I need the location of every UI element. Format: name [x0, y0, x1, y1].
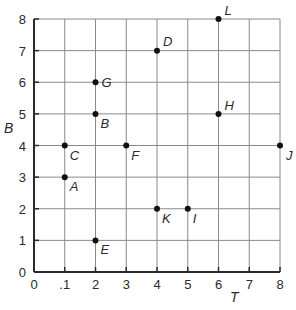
scatter-chart: 0.12345678 012345678 T B ABCDEFGHIJKL — [0, 0, 296, 310]
data-point-d — [154, 48, 160, 54]
data-point-f — [123, 143, 129, 149]
y-tick-label: 7 — [19, 44, 26, 59]
point-label-f: F — [131, 148, 140, 163]
point-label-l: L — [225, 3, 232, 18]
data-point-b — [93, 111, 99, 117]
data-point-a — [62, 174, 68, 180]
x-tick-label: 3 — [123, 277, 130, 292]
data-point-j — [277, 143, 283, 149]
y-tick-label: 0 — [19, 265, 26, 280]
data-point-c — [62, 143, 68, 149]
x-axis-title: T — [230, 289, 240, 305]
data-point-h — [216, 111, 222, 117]
y-tick-label: 4 — [19, 139, 26, 154]
x-tick-label: .1 — [59, 277, 70, 292]
grid-lines — [34, 19, 280, 272]
data-point-l — [216, 16, 222, 22]
point-label-i: I — [193, 211, 197, 226]
y-axis-ticks: 012345678 — [19, 12, 39, 280]
x-tick-label: 2 — [92, 277, 99, 292]
x-tick-label: 7 — [246, 277, 253, 292]
y-tick-label: 6 — [19, 75, 26, 90]
x-tick-label: 8 — [276, 277, 283, 292]
y-axis-title: B — [4, 120, 13, 136]
data-point-k — [154, 206, 160, 212]
point-label-k: K — [162, 211, 172, 226]
point-label-e: E — [101, 242, 110, 257]
data-point-i — [185, 206, 191, 212]
x-tick-label: 0 — [30, 277, 37, 292]
x-tick-label: 4 — [153, 277, 160, 292]
y-tick-label: 1 — [19, 233, 26, 248]
data-point-g — [93, 79, 99, 85]
point-label-h: H — [225, 98, 235, 113]
x-tick-label: 5 — [184, 277, 191, 292]
point-label-b: B — [101, 116, 110, 131]
x-tick-label: 6 — [215, 277, 222, 292]
data-point-e — [93, 237, 99, 243]
y-tick-label: 5 — [19, 107, 26, 122]
data-points: ABCDEFGHIJKL — [62, 3, 293, 257]
y-tick-label: 3 — [19, 170, 26, 185]
y-tick-label: 8 — [19, 12, 26, 27]
point-label-d: D — [163, 34, 172, 49]
point-label-c: C — [70, 148, 80, 163]
x-axis-ticks: 0.12345678 — [30, 267, 283, 292]
y-tick-label: 2 — [19, 202, 26, 217]
point-label-a: A — [69, 179, 79, 194]
point-label-j: J — [285, 148, 293, 163]
point-label-g: G — [102, 75, 112, 90]
